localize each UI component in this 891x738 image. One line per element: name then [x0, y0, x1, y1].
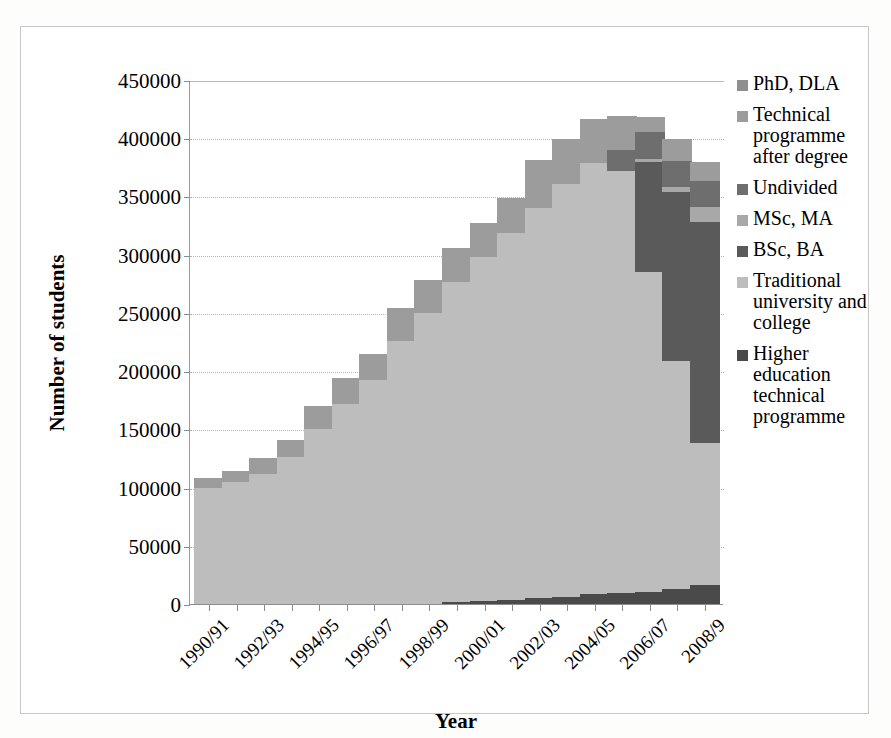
- bar-segment: [635, 117, 665, 132]
- bar-segment: [580, 163, 610, 594]
- x-axis-tick: [347, 605, 348, 611]
- bar-segment: [222, 482, 252, 604]
- legend-swatch-icon: [737, 80, 748, 91]
- bar-stack: [359, 354, 389, 604]
- legend-item-label: Undivided: [753, 177, 837, 198]
- bar-segment: [635, 272, 665, 592]
- x-axis-tick-label: 2006/07: [616, 615, 673, 672]
- bar-stack: [525, 160, 555, 604]
- bar-segment: [690, 222, 720, 443]
- bar-segment: [414, 313, 444, 604]
- x-axis-tick-label: 2002/03: [506, 615, 563, 672]
- bar-segment: [690, 585, 720, 604]
- legend-item[interactable]: Higher education technical programme: [737, 343, 883, 427]
- y-axis-tick-label: 100000: [118, 478, 181, 499]
- bar-segment: [525, 160, 555, 208]
- bar-segment: [359, 354, 389, 380]
- bar-segment: [304, 429, 334, 604]
- y-axis-tick-label: 250000: [118, 303, 181, 324]
- bar-segment: [359, 380, 389, 604]
- y-axis-tick-label: 150000: [118, 420, 181, 441]
- legend-item[interactable]: BSc, BA: [737, 239, 883, 260]
- y-axis-tick-label: 200000: [118, 362, 181, 383]
- chart-frame: Number of students 050000100000150000200…: [20, 26, 869, 714]
- y-axis-tick-label: 50000: [129, 536, 182, 557]
- y-axis-tick: [184, 372, 190, 373]
- y-axis-tick: [184, 605, 190, 606]
- x-axis-tick: [319, 605, 320, 611]
- x-axis-tick-label: 1998/99: [395, 615, 452, 672]
- legend-swatch-icon: [737, 246, 748, 257]
- bar-stack: [607, 116, 637, 604]
- bar-segment: [690, 207, 720, 222]
- y-axis-tick-label: 350000: [118, 187, 181, 208]
- y-axis-tick-label: 400000: [118, 129, 181, 150]
- bar-segment: [497, 600, 527, 604]
- bar-segment: [607, 116, 637, 151]
- bar-segment: [470, 223, 500, 257]
- bar-stack: [304, 406, 334, 604]
- bar-stack: [662, 139, 692, 604]
- bar-segment: [635, 132, 665, 159]
- bar-segment: [662, 589, 692, 604]
- x-axis-tick-label: 2004/05: [561, 615, 618, 672]
- bar-segment: [662, 192, 692, 361]
- legend-item-label: PhD, DLA: [753, 73, 840, 94]
- chart-legend: PhD, DLATechnical programme after degree…: [737, 73, 883, 437]
- bar-stack: [690, 162, 720, 604]
- legend-item-label: BSc, BA: [753, 239, 824, 260]
- x-axis-tick: [485, 605, 486, 611]
- bar-segment: [635, 592, 665, 604]
- bar-segment: [525, 208, 555, 598]
- bar-segment: [497, 233, 527, 600]
- bar-stack: [635, 117, 665, 604]
- legend-item[interactable]: Technical programme after degree: [737, 104, 883, 167]
- x-axis-tick: [402, 605, 403, 611]
- y-axis-tick: [184, 547, 190, 548]
- x-axis-tick: [595, 605, 596, 611]
- x-axis-title: Year: [189, 711, 723, 732]
- x-axis-tick-label: 1992/93: [230, 615, 287, 672]
- y-axis-title: Number of students: [43, 81, 71, 605]
- x-axis-tick: [237, 605, 238, 611]
- y-axis-tick-label: 0: [171, 595, 182, 616]
- y-axis-tick: [184, 430, 190, 431]
- bar-segment: [277, 457, 307, 604]
- bar-segment: [442, 602, 472, 604]
- y-axis-tick: [184, 81, 190, 82]
- x-axis-tick: [677, 605, 678, 611]
- legend-swatch-icon: [737, 215, 748, 226]
- legend-item[interactable]: Undivided: [737, 177, 883, 198]
- bar-stack: [552, 139, 582, 604]
- bar-segment: [525, 598, 555, 604]
- y-axis-tick-label: 300000: [118, 245, 181, 266]
- bar-segment: [552, 139, 582, 184]
- bar-stack: [277, 440, 307, 604]
- bar-segment: [552, 597, 582, 604]
- y-axis-tick: [184, 197, 190, 198]
- bar-segment: [690, 181, 720, 207]
- legend-item[interactable]: Traditional university and college: [737, 270, 883, 333]
- plot-area: 0500001000001500002000002500003000003500…: [189, 81, 723, 605]
- bar-stack: [222, 471, 252, 604]
- bar-stack: [194, 478, 224, 604]
- x-axis-tick: [540, 605, 541, 611]
- y-axis-tick: [184, 314, 190, 315]
- x-axis-tick: [567, 605, 568, 611]
- bar-segment: [387, 341, 417, 604]
- x-axis-tick: [512, 605, 513, 611]
- x-axis-tick: [429, 605, 430, 611]
- bar-segment: [304, 406, 334, 429]
- bar-segment: [580, 594, 610, 604]
- bar-segment: [552, 184, 582, 597]
- bar-segment: [607, 150, 637, 171]
- bar-segment: [332, 404, 362, 604]
- bar-segment: [662, 139, 692, 161]
- legend-item[interactable]: MSc, MA: [737, 208, 883, 229]
- x-axis-tick: [292, 605, 293, 611]
- bar-stack: [414, 280, 444, 604]
- x-axis-tick: [650, 605, 651, 611]
- bar-segment: [690, 162, 720, 182]
- legend-item[interactable]: PhD, DLA: [737, 73, 883, 94]
- bar-segment: [690, 443, 720, 585]
